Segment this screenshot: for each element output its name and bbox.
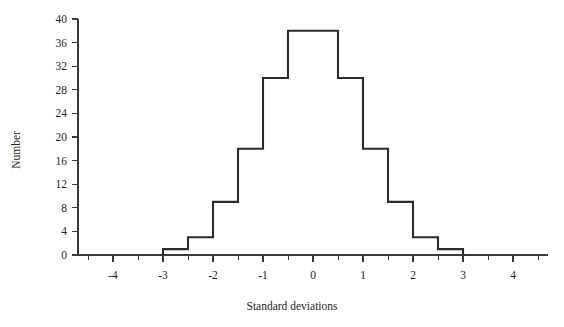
x-axis-tick-label: 0 [310,269,316,281]
y-axis-tick-label: 12 [56,178,68,190]
y-axis-tick-label: 40 [56,13,68,25]
x-axis: -4-3-2-101234 [78,255,548,281]
histogram-step-outline [163,31,463,255]
y-axis-tick-label: 4 [61,225,67,237]
y-axis-tick-label: 20 [56,131,68,143]
y-axis-tick-label: 32 [56,60,68,72]
x-axis-tick-label: 2 [410,269,416,281]
y-axis: 0481216202428323640 [56,13,79,261]
x-axis-tick-label: -2 [208,269,218,281]
x-axis-tick-label: -1 [258,269,268,281]
histogram-series [163,31,463,255]
y-axis-tick-label: 16 [56,155,68,167]
y-axis-tick-label: 24 [56,107,68,119]
y-axis-title: Number [10,131,22,169]
x-axis-tick-label: -4 [108,269,118,281]
histogram-figure: 0481216202428323640 -4-3-2-101234 Number… [0,0,564,327]
x-axis-title: Standard deviations [246,300,338,312]
x-axis-tick-label: -3 [158,269,168,281]
y-axis-tick-label: 36 [56,37,68,49]
y-axis-tick-label: 28 [56,84,68,96]
y-axis-tick-label: 8 [61,202,67,214]
y-axis-tick-label: 0 [61,249,67,261]
x-axis-tick-label: 3 [460,269,466,281]
x-axis-tick-label: 4 [510,269,516,281]
histogram-plot: 0481216202428323640 -4-3-2-101234 Number… [0,0,564,327]
x-axis-tick-label: 1 [360,269,366,281]
